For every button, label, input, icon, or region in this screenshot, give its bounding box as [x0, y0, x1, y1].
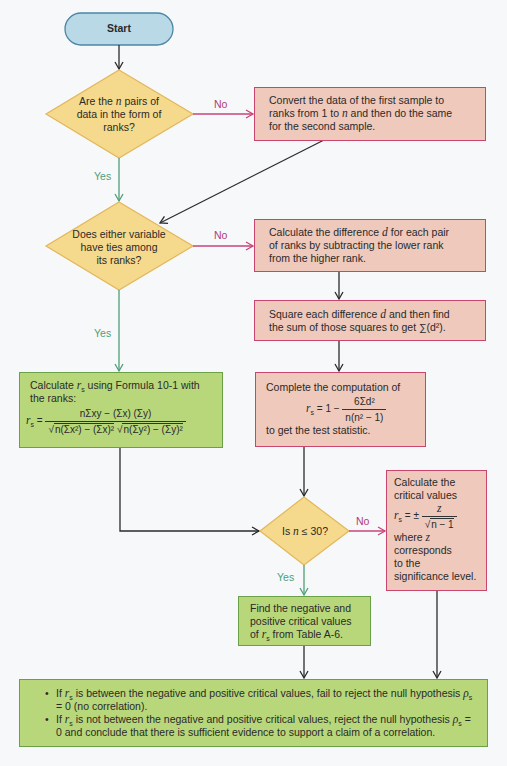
compute-test-statistic-box: Complete the computation of rs = 1 − 6Σd… — [255, 372, 426, 447]
decision3-text: Is n ≤ 30? — [262, 525, 348, 538]
conclusion-reject: If rs is not between the negative and po… — [56, 713, 477, 739]
conclusion-list: If rs is between the negative and positi… — [42, 687, 477, 739]
decision2-text: Does either variable have ties among its… — [66, 228, 172, 267]
convert-ranks-box: Convert the data of the first sample to … — [254, 87, 486, 141]
sum-d-squared-formula: ∑(d²). — [419, 321, 446, 333]
critical-value-formula: rs = ± z √n − 1 — [394, 502, 482, 531]
decision3-no-label: No — [356, 515, 369, 527]
conclusion-box: If rs is between the negative and positi… — [19, 679, 488, 747]
conclusion-fail-to-reject: If rs is between the negative and positi… — [56, 687, 477, 713]
calculate-difference-box: Calculate the difference d for each pair… — [254, 219, 486, 272]
decision3-yes-label: Yes — [277, 571, 294, 583]
decision1-text: Are the n pairs of data in the form of r… — [66, 95, 172, 134]
arrow-convert-to-decision2 — [160, 140, 324, 223]
table-a6-box: Find the negative and positive critical … — [238, 596, 371, 646]
start-label: Start — [65, 22, 173, 35]
critical-values-box: Calculate the critical values rs = ± z √… — [386, 470, 487, 591]
square-differences-box: Square each difference d and then find t… — [254, 300, 486, 341]
decision2-no-label: No — [214, 229, 227, 241]
decision1-no-label: No — [214, 98, 227, 110]
formula-10-1-box: Calculate rs using Formula 10-1 with the… — [19, 372, 223, 448]
spearman-formula: rs = 1 − 6Σd² n(n² − 1) — [306, 395, 417, 424]
pearson-rank-formula: rs = nΣxy − (Σx) (Σy) √n(Σx²) − (Σx)² √n… — [26, 407, 214, 436]
decision2-yes-label: Yes — [94, 327, 111, 339]
decision1-yes-label: Yes — [94, 170, 111, 182]
arrow-formula-to-decision3 — [120, 447, 259, 531]
